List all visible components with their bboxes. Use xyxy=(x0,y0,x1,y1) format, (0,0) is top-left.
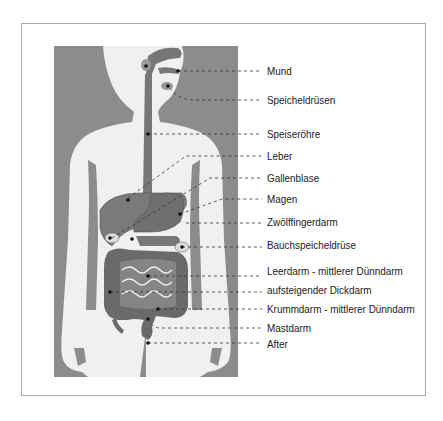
label-after: After xyxy=(267,338,288,351)
pancreas xyxy=(136,236,180,246)
label-aufsteigender-dickdarm: aufsteigender Dickdarm xyxy=(267,284,371,297)
label-krummdarm: Krummdarm - mittlerer Dünndarm xyxy=(267,303,415,316)
digestive-system-illustration xyxy=(0,0,443,421)
label-speicheldruesen: Speicheldrüsen xyxy=(267,94,335,107)
label-zwoelffingerdarm: Zwölffingerdarm xyxy=(267,216,338,229)
label-magen: Magen xyxy=(267,193,297,206)
label-leber: Leber xyxy=(267,150,292,163)
label-mastdarm: Mastdarm xyxy=(267,322,311,335)
label-mund: Mund xyxy=(267,65,292,78)
label-gallenblase: Gallenblase xyxy=(267,172,319,185)
label-bauchspeicheldruese: Bauchspeicheldrüse xyxy=(267,239,356,252)
label-leerdarm: Leerdarm - mittlerer Dünndarm xyxy=(267,265,403,278)
label-speiseroehre: Speiseröhre xyxy=(267,128,320,141)
